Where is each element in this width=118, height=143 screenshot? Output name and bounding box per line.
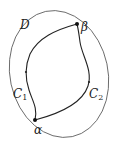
c1-marker-dot bbox=[25, 71, 27, 73]
c2-label: C2 bbox=[89, 87, 103, 102]
point-alpha bbox=[33, 118, 37, 122]
alpha-label: α bbox=[34, 123, 42, 137]
diagram-canvas: D β α C1 C2 bbox=[0, 0, 118, 143]
c2-marker-dot bbox=[88, 81, 90, 83]
beta-label: β bbox=[80, 20, 88, 34]
point-beta bbox=[75, 22, 79, 26]
region-d-boundary bbox=[0, 1, 118, 143]
c1-label: C1 bbox=[13, 87, 27, 102]
region-label: D bbox=[19, 18, 30, 32]
curve-c1 bbox=[26, 24, 77, 120]
